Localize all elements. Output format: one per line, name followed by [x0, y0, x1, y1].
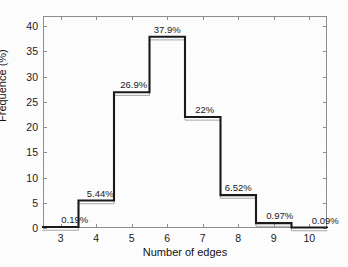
y-tick-label: 10 — [26, 172, 38, 184]
y-tick-mark — [43, 228, 47, 229]
x-tick-label: 4 — [93, 232, 99, 244]
x-tick-label: 9 — [271, 232, 277, 244]
plot-area: 0510152025303540 345678910 0.19%5.44%26.… — [43, 16, 327, 228]
y-tick-label: 40 — [26, 20, 38, 32]
bar-value-label: 26.9% — [120, 79, 147, 90]
x-tick-label: 10 — [303, 232, 315, 244]
histogram-step-outline — [43, 16, 327, 228]
y-tick-label: 20 — [26, 121, 38, 133]
bar-value-label: 5.44% — [87, 188, 114, 199]
y-tick-label: 25 — [26, 96, 38, 108]
bar-value-label: 37.9% — [154, 24, 181, 35]
histogram-main-path — [43, 37, 327, 228]
x-tick-label: 5 — [129, 232, 135, 244]
x-tick-label: 7 — [200, 232, 206, 244]
x-tick-label: 6 — [164, 232, 170, 244]
bar-value-label: 0.19% — [61, 214, 88, 225]
bar-value-label: 0.97% — [266, 210, 293, 221]
x-tick-label: 8 — [235, 232, 241, 244]
y-tick-label: 5 — [32, 197, 38, 209]
y-tick-label: 30 — [26, 71, 38, 83]
x-tick-label: 3 — [58, 232, 64, 244]
bar-value-label: 22% — [195, 104, 214, 115]
bar-value-label: 6.52% — [225, 182, 252, 193]
y-tick-label: 35 — [26, 45, 38, 57]
x-axis-title: Number of edges — [43, 246, 327, 258]
y-tick-label: 0 — [32, 222, 38, 234]
y-axis-title: Frequence (%) — [0, 49, 8, 122]
bar-value-label: 0.09% — [312, 215, 339, 226]
histogram-figure: Frequence (%) 0510152025303540 345678910… — [0, 0, 348, 267]
y-tick-label: 15 — [26, 146, 38, 158]
